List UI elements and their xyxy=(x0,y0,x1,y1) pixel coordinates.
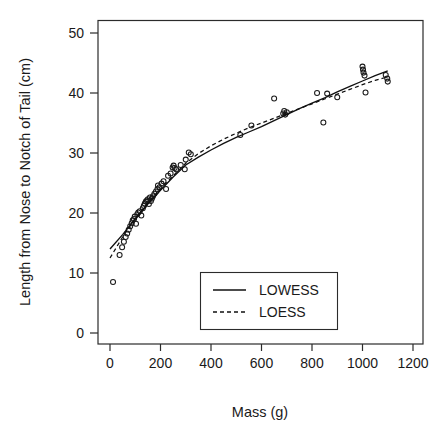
y-tick-label: 20 xyxy=(68,205,84,221)
chart-legend: LOWESS LOESS xyxy=(201,273,338,330)
x-tick-label: 1200 xyxy=(397,355,428,371)
x-tick-label: 1000 xyxy=(347,355,378,371)
x-tick-label: 0 xyxy=(106,355,114,371)
y-tick-label: 50 xyxy=(68,25,84,41)
x-tick-label: 600 xyxy=(250,355,274,371)
y-tick-label: 10 xyxy=(68,265,84,281)
y-tick-label: 30 xyxy=(68,145,84,161)
legend-label-lowess: LOWESS xyxy=(259,282,319,298)
x-tick-label: 400 xyxy=(199,355,223,371)
y-axis-title: Length from Nose to Notch of Tail (cm) xyxy=(17,58,33,306)
x-tick-label: 800 xyxy=(300,355,324,371)
chart-canvas: 020040060080010001200 01020304050 LOWESS… xyxy=(0,0,448,442)
x-tick-label: 200 xyxy=(149,355,173,371)
y-tick-label: 0 xyxy=(76,325,84,341)
y-tick-label: 40 xyxy=(68,85,84,101)
scatter-plot-figure: 020040060080010001200 01020304050 LOWESS… xyxy=(0,0,448,442)
x-axis-title: Mass (g) xyxy=(232,404,288,420)
legend-label-loess: LOESS xyxy=(259,304,306,320)
figure-background xyxy=(0,0,448,442)
